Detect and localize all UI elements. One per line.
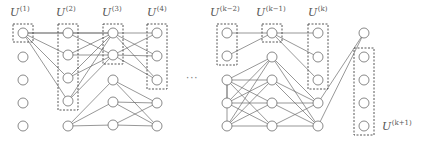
edge [272,33,318,57]
label-sup: (k) [318,5,328,13]
edge [23,33,68,78]
node-cf-4 [359,121,369,131]
node-c2-0 [63,28,73,38]
node-c1-2 [18,75,28,85]
label-sup: (4) [157,5,167,13]
node-c1-1 [18,52,28,62]
label-base: U [10,6,19,19]
node-c3-4 [108,120,118,130]
label-base: U [147,6,156,19]
node-c2-1 [63,50,73,60]
node-ck-1 [313,52,323,62]
node-ck1-3 [267,98,277,108]
edge [272,33,318,80]
node-c3-3 [108,97,118,107]
node-ck2-0 [222,28,232,38]
node-c2-2 [63,73,73,83]
edge [113,55,157,80]
edge [68,55,113,101]
node-ck2-3 [222,98,232,108]
edge [68,125,113,126]
label-uk+1: U(k+1) [382,120,412,132]
node-ck-0 [313,28,323,38]
node-cf-0 [359,28,369,38]
node-c4-4 [152,121,162,131]
edge [272,57,318,103]
layered-network-diagram: U(1) U(2) U(3) U(4) U(k−2) U(k−1) U(k) U… [0,0,426,143]
node-c4-3 [152,98,162,108]
edge [113,80,157,103]
edge [227,33,272,56]
label-base: U [56,6,65,19]
node-c3-0 [108,28,118,38]
edge [68,102,113,126]
node-c4-2 [152,75,162,85]
node-ck-3 [313,98,323,108]
edge [113,55,157,56]
edge [68,33,113,78]
label-sup: (2) [66,5,76,13]
label-sup: (k+1) [392,119,412,127]
edge [227,57,272,80]
edge [318,33,364,103]
label-base: U [256,6,265,19]
edge [113,103,157,125]
node-cf-2 [359,75,369,85]
node-ck2-4 [222,121,232,131]
label-uk: U(k) [308,6,328,18]
edge [113,125,157,126]
node-ck2-2 [222,75,232,85]
label-sup: (k−1) [266,5,286,13]
node-c4-1 [152,51,162,61]
edge [318,33,364,126]
label-base: U [308,6,317,19]
node-c4-0 [152,28,162,38]
node-ck1-4 [267,121,277,131]
node-c3-1 [108,50,118,60]
node-c2-3 [63,96,73,106]
label-u4: U(4) [147,6,167,18]
node-cf-3 [359,98,369,108]
edge [68,33,113,101]
node-c1-4 [18,121,28,131]
node-c1-3 [18,98,28,108]
label-base: U [210,6,219,19]
label-u2: U(2) [56,6,76,18]
label-u1: U(1) [10,6,30,18]
node-ck2-1 [222,51,232,61]
node-ck1-2 [267,75,277,85]
label-uk-2: U(k−2) [210,6,240,18]
node-c2-4 [63,121,73,131]
label-uk-1: U(k−1) [256,6,286,18]
node-ck-2 [313,75,323,85]
label-sup: (1) [20,5,30,13]
edge [68,80,113,126]
edge [113,33,157,80]
label-sup: (k−2) [220,5,240,13]
edge [113,102,157,103]
node-ck-4 [313,121,323,131]
node-ck1-0 [267,28,277,38]
label-base: U [102,6,111,19]
network-graph [0,0,426,143]
edge [227,57,272,126]
edge [23,33,68,55]
node-c3-2 [108,75,118,85]
node-ck1-1 [267,52,277,62]
node-c1-0 [18,28,28,38]
label-base: U [382,120,391,133]
node-cf-1 [359,52,369,62]
edge [272,80,318,103]
edge [23,33,68,101]
label-sup: (3) [112,5,122,13]
label-u3: U(3) [102,6,122,18]
ellipsis: ··· [186,72,199,83]
